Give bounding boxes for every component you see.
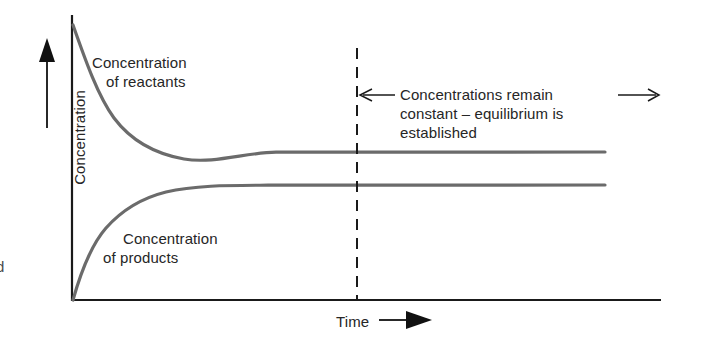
annotation-line1: Concentrations remain [400,86,553,103]
y-axis-label: Concentration [70,58,89,218]
series-label-products-line2: of products [103,249,178,266]
series-label-reactants: Concentrationof reactants [92,53,187,91]
equilibrium-annotation-text: Concentrations remain constant – equilib… [400,85,563,142]
x-axis-label: Time [336,312,369,331]
series-label-products: Concentrationof products [103,229,218,267]
annotation-line3: established [400,124,477,141]
annotation-line2: constant – equilibrium is [400,105,563,122]
series-label-products-line1: Concentration [103,229,218,248]
page-margin-text-fragment: d [0,258,5,274]
series-label-reactants-line2: of reactants [92,72,187,91]
series-label-reactants-line1: Concentration [92,54,187,71]
